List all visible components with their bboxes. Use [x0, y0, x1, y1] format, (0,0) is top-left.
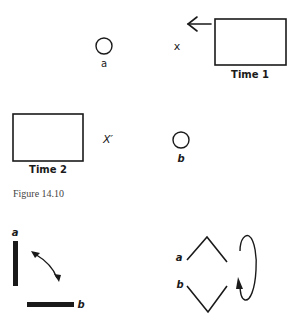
time2-rectangle [13, 114, 83, 161]
time1-rectangle [215, 19, 286, 65]
left-arrow-icon [188, 17, 211, 31]
circle-b-label: b [177, 153, 184, 165]
double-curved-arrow-icon [31, 251, 61, 282]
time2-label: Time 2 [29, 164, 67, 176]
time1-label: Time 1 [231, 69, 269, 81]
figure-caption: Figure 14.10 [13, 188, 64, 199]
horizontal-bar-b [27, 302, 74, 307]
x-label: x [174, 41, 181, 53]
lower-chevron-b [187, 286, 227, 312]
vertical-bar-a [13, 241, 18, 286]
lower-chevron-label: b [176, 279, 183, 291]
circle-a-label: a [101, 58, 107, 70]
upper-chevron-label: a [176, 252, 183, 264]
circle-a [96, 38, 112, 54]
upper-chevron-a [187, 237, 227, 262]
circle-b [173, 132, 189, 148]
vertical-bar-label: a [12, 227, 19, 239]
loop-arrow-icon [236, 236, 256, 301]
x-prime-label: X′ [103, 134, 113, 146]
horizontal-bar-label: b [77, 299, 84, 311]
